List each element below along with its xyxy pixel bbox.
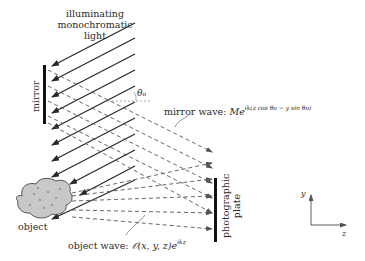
object-label: object xyxy=(18,221,48,232)
mirror-wave-exponent: ik(z cos θo − y sin θo) xyxy=(245,104,312,111)
theta-label: θo xyxy=(137,88,146,99)
mirror-wave-rays xyxy=(48,70,212,213)
object-wave-prefix: object wave: xyxy=(68,240,132,251)
theta-subscript: o xyxy=(142,90,146,97)
photographic-plate-bar xyxy=(214,178,217,242)
axis-y-label: y xyxy=(301,188,306,199)
mirror-bar xyxy=(43,65,46,124)
object-wave-label: object wave: 𝒪(x, y, z)eikz xyxy=(68,236,186,251)
light-label: illuminating monochromatic light xyxy=(55,8,135,41)
object-wave-rays xyxy=(72,163,212,229)
mirror-wave-M: Me xyxy=(229,106,244,117)
light-label-line2: monochromatic xyxy=(55,19,135,30)
plate-label-line1: photographic xyxy=(220,174,231,238)
light-label-line3: light xyxy=(55,30,135,41)
axis-z-label: z xyxy=(342,228,346,239)
object-wave-func: 𝒪(x, y, z)e xyxy=(132,240,178,251)
axes-indicator xyxy=(311,195,346,225)
mirror-wave-label: mirror wave: Meik(z cos θo − y sin θo) xyxy=(164,102,311,117)
light-label-line1: illuminating xyxy=(55,8,135,19)
object-wave-leader xyxy=(126,215,145,235)
mirror-label: mirror xyxy=(30,81,41,112)
plate-label: photographic plate xyxy=(220,174,242,238)
object-shape xyxy=(16,178,72,218)
plate-label-line2: plate xyxy=(231,174,242,238)
object-wave-exponent: ikz xyxy=(177,238,186,245)
mirror-wave-prefix: mirror wave: xyxy=(164,106,229,117)
